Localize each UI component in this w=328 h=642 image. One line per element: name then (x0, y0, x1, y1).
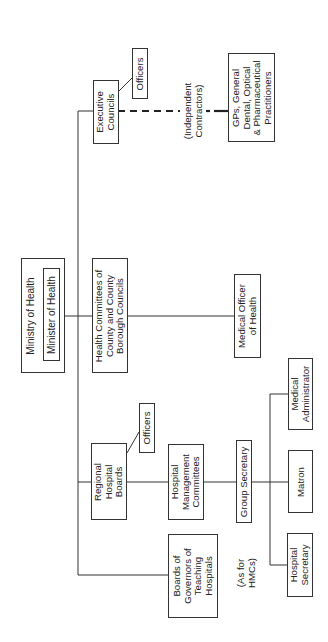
group-secretary-label: Group Secretary (239, 446, 250, 516)
minister-of-health-box: Minister of Health (43, 268, 60, 361)
medical-administrator-label: Medical Administrator (290, 366, 311, 423)
health-committees-label: Health Committees of County and County B… (94, 269, 126, 361)
matron-box: Matron (288, 450, 313, 513)
gps-practitioners-box: GPs, General Dental, Optical & Pharmaceu… (228, 53, 275, 142)
independent-contractors-text: (Independent Contractors) (183, 83, 204, 140)
health-committees-box: Health Committees of County and County B… (92, 258, 128, 373)
gps-label: GPs, General Dental, Optical & Pharmaceu… (230, 60, 272, 135)
medical-officer-label: Medical Officer of Health (237, 284, 258, 348)
matron-label: Matron (295, 467, 306, 497)
hospital-secretary-label: Hospital Secretary (289, 544, 310, 585)
rhb-officers-label: Officers (142, 412, 153, 445)
medical-officer-box: Medical Officer of Health (234, 274, 261, 358)
ministry-label: Ministry of Health (26, 277, 37, 354)
regional-hospital-boards-box: Regional Hospital Boards (91, 443, 127, 520)
ec-officers-label: Officers (135, 57, 146, 90)
as-for-hmcs-text: (As for HMCs) (236, 558, 257, 588)
minister-label: Minister of Health (46, 276, 57, 354)
hospital-management-committees-box: Hospital Management Committees (168, 444, 204, 520)
boards-governors-label: Boards of Governors of Teaching Hospital… (172, 548, 214, 603)
as-for-hmcs-note: (As for HMCs) (237, 553, 257, 593)
independent-contractors-note: (Independent Contractors) (184, 78, 204, 144)
boards-of-governors-box: Boards of Governors of Teaching Hospital… (168, 534, 218, 618)
medical-administrator-box: Medical Administrator (288, 358, 313, 430)
regional-boards-label: Regional Hospital Boards (93, 463, 125, 501)
org-chart-nhs-1948: Ministry of Health Minister of Health Ex… (0, 0, 328, 642)
executive-councils-box: Executive Councils (93, 80, 119, 144)
hmc-label: Hospital Management Committees (170, 454, 202, 510)
group-secretary-box: Group Secretary (236, 440, 252, 523)
rhb-officers-box: Officers (139, 403, 155, 453)
hospital-secretary-box: Hospital Secretary (287, 533, 313, 597)
ec-officers-box: Officers (132, 48, 148, 99)
executive-councils-label: Executive Councils (95, 91, 116, 133)
